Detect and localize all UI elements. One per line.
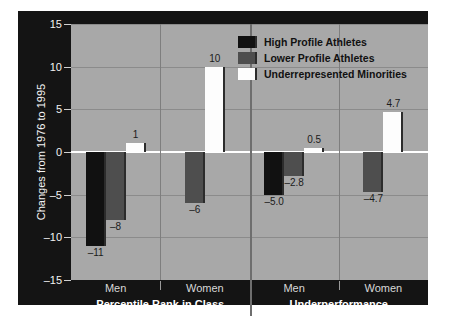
legend-item: Underrepresented Minorities: [238, 66, 407, 81]
chart-panel: Changes from 1976 to 1995 151050–5–10–15…: [18, 11, 428, 305]
y-tick-label: –5: [50, 189, 62, 201]
legend-label: Lower Profile Athletes: [264, 52, 374, 64]
bar: [363, 152, 383, 192]
y-axis: Changes from 1976 to 1995 151050–5–10–15: [18, 24, 71, 280]
panel-separator-bottom: [250, 280, 252, 316]
x-group-label: Men: [105, 282, 126, 294]
y-tick: [64, 280, 71, 281]
x-group-label: Women: [365, 282, 403, 294]
legend-item: High Profile Athletes: [238, 34, 407, 49]
y-tick-label: 0: [56, 146, 62, 158]
group-separator: [160, 24, 161, 280]
bar: [126, 143, 146, 152]
y-tick-label: –15: [44, 274, 62, 286]
bar-value-label: –8: [110, 221, 121, 232]
x-tick: [339, 281, 340, 290]
legend-swatch: [238, 52, 257, 64]
y-tick: [64, 67, 71, 68]
bar-value-label: –4.7: [364, 193, 383, 204]
x-axis: MenWomenPercentile Rank in ClassMenWomen…: [71, 282, 428, 316]
legend: High Profile AthletesLower Profile Athle…: [234, 32, 411, 84]
legend-label: Underrepresented Minorities: [264, 68, 407, 80]
y-tick: [64, 237, 71, 238]
y-tick-label: 15: [50, 18, 62, 30]
bar-value-label: –6: [189, 204, 200, 215]
legend-swatch: [238, 36, 257, 48]
bar-value-label: 0.5: [307, 134, 321, 145]
bar: [383, 112, 403, 152]
bar: [304, 148, 324, 152]
y-tick: [64, 109, 71, 110]
bar-value-label: –11: [88, 247, 104, 258]
y-tick: [64, 152, 71, 153]
x-tick: [160, 281, 161, 290]
plot-area: –11–81–610–5.0–2.80.5–4.74.7 High Profil…: [71, 24, 428, 280]
bar: [205, 67, 225, 152]
legend-item: Lower Profile Athletes: [238, 50, 407, 65]
x-group-label: Men: [283, 282, 304, 294]
y-tick: [64, 195, 71, 196]
bar: [264, 152, 284, 195]
legend-swatch: [238, 68, 257, 80]
y-tick-label: –10: [44, 231, 62, 243]
y-tick-label: 5: [56, 103, 62, 115]
bar-value-label: –2.8: [284, 177, 303, 188]
bar: [284, 152, 304, 176]
bar-value-label: 1: [133, 129, 139, 140]
y-tick: [64, 24, 71, 25]
bar-value-label: 4.7: [386, 98, 400, 109]
y-tick-label: 10: [50, 61, 62, 73]
x-panel-label: Underperformance: [290, 298, 388, 310]
bar-value-label: 10: [209, 53, 220, 64]
bar: [185, 152, 205, 203]
bar-value-label: –5.0: [264, 196, 283, 207]
bar: [86, 152, 106, 246]
x-panel-label: Percentile Rank in Class: [96, 298, 224, 310]
bar: [106, 152, 126, 220]
chart-figure: Changes from 1976 to 1995 151050–5–10–15…: [0, 0, 450, 323]
x-group-label: Women: [186, 282, 224, 294]
legend-label: High Profile Athletes: [264, 36, 367, 48]
